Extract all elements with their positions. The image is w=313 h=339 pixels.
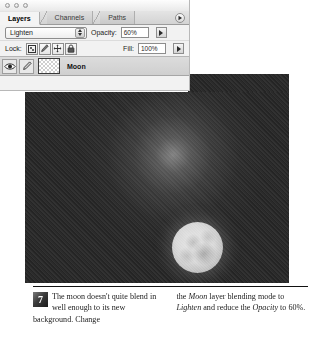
tab-layers-label: Layers bbox=[8, 15, 31, 22]
caption-text-2b: layer blending mode to bbox=[207, 292, 284, 301]
moon-photo bbox=[25, 92, 289, 283]
caption-text-2c: and reduce the bbox=[201, 303, 252, 312]
blend-and-opacity-row: Lighten Opacity: 60% bbox=[0, 25, 189, 41]
tab-divider bbox=[93, 11, 100, 24]
opacity-input[interactable]: 60% bbox=[121, 27, 149, 38]
chevron-right-icon bbox=[159, 30, 163, 36]
lock-label: Lock: bbox=[5, 45, 22, 52]
zoom-button[interactable] bbox=[23, 3, 28, 8]
lock-all-icon[interactable] bbox=[65, 43, 77, 55]
chevron-updown-icon[interactable] bbox=[75, 28, 85, 38]
eye-icon bbox=[4, 62, 16, 71]
opacity-slider-button[interactable] bbox=[156, 27, 167, 38]
tab-layers[interactable]: Layers bbox=[0, 12, 40, 25]
chevron-right-icon bbox=[177, 46, 181, 52]
photo-top-strip bbox=[188, 74, 289, 93]
tab-paths-label: Paths bbox=[108, 14, 126, 21]
layers-palette: Layers Channels Paths Lighten Opacity: 6… bbox=[0, 0, 190, 91]
moon-surface-texture bbox=[172, 222, 223, 273]
layer-visibility-toggle[interactable] bbox=[2, 59, 17, 74]
caption-text-1: The moon doesn't quite blend in well eno… bbox=[33, 292, 156, 324]
lock-position-icon[interactable] bbox=[52, 43, 64, 55]
lock-and-fill-row: Lock: Fill: 100% bbox=[0, 41, 189, 57]
tab-paths[interactable]: Paths bbox=[100, 11, 135, 24]
palette-titlebar[interactable] bbox=[0, 0, 189, 11]
caption-block: 7The moon doesn't quite blend in well en… bbox=[33, 291, 308, 335]
layer-name-moon[interactable]: Moon bbox=[67, 63, 86, 70]
step-number-badge: 7 bbox=[33, 292, 48, 307]
brush-icon bbox=[22, 61, 32, 71]
moon-disc bbox=[172, 222, 223, 273]
close-button[interactable] bbox=[5, 3, 10, 8]
fill-slider-button[interactable] bbox=[173, 43, 184, 54]
caption-column-2: the Moon layer blending mode to Lighten … bbox=[177, 291, 309, 335]
palette-menu-button[interactable] bbox=[175, 13, 185, 23]
caption-emphasis-lighten: Lighten bbox=[177, 303, 202, 312]
fill-input[interactable]: 100% bbox=[138, 43, 166, 54]
layer-row-moon[interactable]: Moon bbox=[0, 57, 189, 76]
blend-mode-value: Lighten bbox=[10, 29, 33, 36]
tab-channels[interactable]: Channels bbox=[47, 11, 94, 24]
tab-channels-label: Channels bbox=[55, 14, 85, 21]
fill-label: Fill: bbox=[123, 45, 134, 52]
palette-tabs: Layers Channels Paths bbox=[0, 11, 189, 25]
caption-emphasis-moon: Moon bbox=[188, 292, 207, 301]
blend-mode-select[interactable]: Lighten bbox=[5, 27, 87, 39]
lock-icon-group bbox=[26, 43, 77, 55]
opacity-label: Opacity: bbox=[91, 29, 117, 36]
palette-menu-arrow-icon bbox=[177, 15, 183, 21]
layer-edit-mode-icon[interactable] bbox=[19, 59, 34, 74]
tab-divider bbox=[40, 11, 47, 24]
caption-column-1: 7The moon doesn't quite blend in well en… bbox=[33, 291, 165, 335]
caption-emphasis-opacity: Opacity bbox=[252, 303, 278, 312]
lock-transparent-pixels-icon[interactable] bbox=[26, 43, 38, 55]
caption-text-2a: the bbox=[177, 292, 189, 301]
lock-image-pixels-icon[interactable] bbox=[39, 43, 51, 55]
minimize-button[interactable] bbox=[14, 3, 19, 8]
caption-divider bbox=[33, 286, 308, 287]
caption-text-2d: to 60%. bbox=[278, 303, 305, 312]
layer-thumbnail-moon[interactable] bbox=[38, 58, 60, 74]
